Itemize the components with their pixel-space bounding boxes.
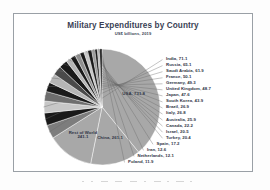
pie-slice-label: Italy, 26.8 [166,111,186,116]
chart-page: Military Expenditures by Country US$ bil… [0,0,270,190]
pie-chart-plot: USA, 731.8China, 261.1Rest of World241.1… [14,14,253,172]
pie-slice-label: Saudi Arabia, 61.9 [166,69,204,74]
pie-slice-label: Spain, 17.2 [157,142,180,147]
pie-slice-label: United Kingdom, 48.7 [166,87,211,92]
pie-slice-label: Poland, 11.9 [128,160,153,165]
pie-slice-label: Netherlands, 12.1 [138,154,174,159]
pie-slice-label: Australia, 25.9 [166,118,196,123]
pie-slice-label: India, 71.1 [166,57,187,62]
pie-slice-label: South Korea, 43.9 [166,99,203,104]
pie-slice-label: Russia, 65.1 [166,63,191,68]
pie-slice-label: Israel, 20.5 [166,130,189,135]
pie-slice-label: Germany, 49.3 [166,81,196,86]
pie-slice-label: USA, 731.8 [108,92,160,97]
pie-slice-label: Turkey, 20.4 [166,136,191,141]
pie-slice-label: Japan, 47.6 [166,93,190,98]
pie-slice-label: Canada, 22.2 [166,124,193,129]
pie-slice-label: Iran, 12.6 [147,148,166,153]
page-caption-artifact [78,178,198,185]
pie-slice-label: Brazil, 26.9 [166,105,189,110]
pie-slice-label: Rest of World241.1 [57,131,109,140]
pie-slice-label: France, 50.1 [166,75,191,80]
chart-frame: Military Expenditures by Country US$ bil… [13,13,253,172]
